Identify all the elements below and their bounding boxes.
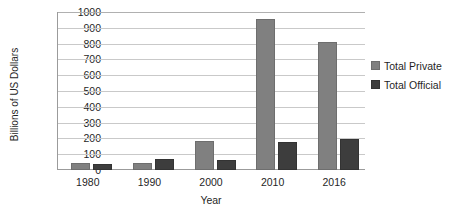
legend-item-label: Total Private [384,60,442,72]
bar [340,139,359,170]
bar [195,141,214,170]
bar [133,163,152,170]
x-axis-tick-label: 2016 [299,176,369,188]
bar [217,160,236,170]
bar-group [318,12,359,170]
bar-chart: Billions of US Dollars 10009008007006005… [0,0,475,213]
legend-item: Total Official [371,77,442,92]
bar [93,164,112,170]
chart-legend: Total PrivateTotal Official [371,58,442,96]
x-axis-tick-label: 1980 [53,176,123,188]
bar [318,42,337,170]
legend-item: Total Private [371,58,442,73]
legend-item-label: Total Official [384,79,441,91]
bar-group [195,12,236,170]
bar [256,19,275,170]
x-axis-tick-label: 2000 [176,176,246,188]
x-axis-title: Year [57,194,365,206]
legend-swatch-icon [371,80,380,89]
bar-group [256,12,297,170]
bar [71,163,90,170]
x-axis-tick-label: 2010 [238,176,308,188]
bars-layer [58,12,365,170]
bar [278,142,297,170]
x-axis-tick-label: 1990 [114,176,184,188]
bar-group [71,12,112,170]
legend-swatch-icon [371,61,380,70]
bar [155,159,174,170]
y-axis-title: Billions of US Dollars [9,20,20,170]
bar-group [133,12,174,170]
